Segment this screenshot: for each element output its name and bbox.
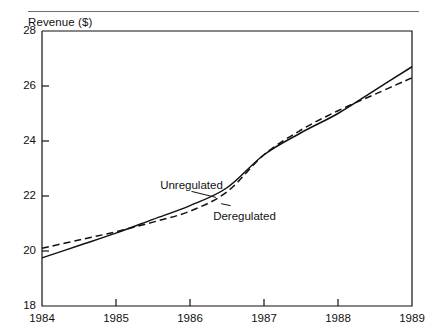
y-tick-label: 20 bbox=[10, 245, 36, 257]
x-tick-label: 1984 bbox=[19, 313, 65, 325]
x-tick-label: 1985 bbox=[93, 313, 139, 325]
data-curves bbox=[42, 67, 412, 258]
y-tick-label: 22 bbox=[10, 190, 36, 202]
x-tick-label: 1989 bbox=[389, 313, 433, 325]
y-tick-label: 28 bbox=[10, 25, 36, 37]
x-tick-label: 1987 bbox=[241, 313, 287, 325]
y-tick-label: 24 bbox=[10, 135, 36, 147]
series-annotation-label: Deregulated bbox=[213, 210, 276, 222]
y-tick-label: 18 bbox=[10, 300, 36, 312]
plot-frame bbox=[42, 31, 412, 306]
y-tick-label: 26 bbox=[10, 80, 36, 92]
plot-area bbox=[0, 0, 433, 336]
x-tick-label: 1986 bbox=[167, 313, 213, 325]
x-tick-label: 1988 bbox=[315, 313, 361, 325]
axis-ticks bbox=[42, 86, 338, 306]
revenue-line-chart: Revenue ($) 182022242628 198419851986198… bbox=[0, 0, 433, 336]
series-annotation-label: Unregulated bbox=[160, 179, 223, 191]
